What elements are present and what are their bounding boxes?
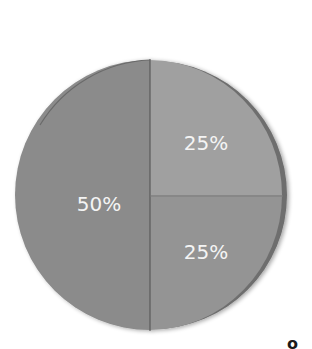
- label-25-top: 25%: [184, 131, 228, 155]
- slice-top-right-25: [150, 60, 282, 195]
- label-25-bottom: 25%: [184, 240, 228, 264]
- cropped-text-fragment: o: [287, 336, 298, 349]
- label-50: 50%: [77, 192, 121, 216]
- pie-chart: 50% 25% 25%: [0, 0, 312, 349]
